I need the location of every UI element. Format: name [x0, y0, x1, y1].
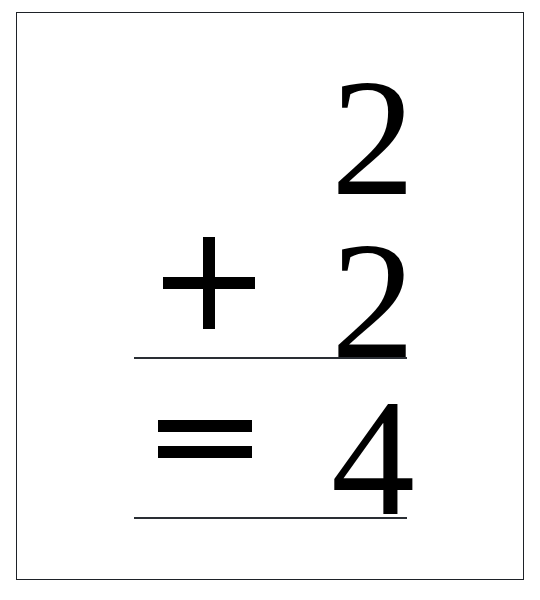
- sum-rule: [134, 357, 407, 359]
- flashcard-page: 2 2 4: [0, 0, 540, 600]
- equals-top-stroke: [158, 420, 252, 432]
- answer-value: 4: [331, 373, 415, 541]
- answer-rule: [134, 517, 407, 519]
- plus-sign-icon: [163, 237, 255, 329]
- second-operand: 2: [331, 216, 415, 384]
- flashcard-border: 2 2 4: [16, 12, 524, 580]
- math-problem: 2 2 4: [17, 13, 523, 579]
- equals-sign-icon: [158, 420, 252, 473]
- equals-bottom-stroke: [158, 446, 252, 458]
- plus-vertical-stroke: [203, 237, 215, 329]
- first-operand: 2: [331, 53, 415, 221]
